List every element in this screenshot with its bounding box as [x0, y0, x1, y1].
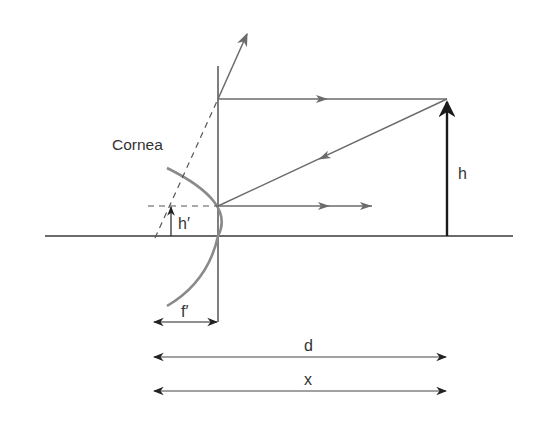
object-height-label: h — [458, 165, 467, 182]
image-height-label: h′ — [178, 215, 190, 232]
diagonal-ray — [218, 99, 447, 206]
distance-d-label: d — [304, 337, 313, 354]
distance-x-label: x — [304, 371, 312, 388]
keratometry-diagram: Cornea h h′ f′ d x — [0, 0, 533, 424]
reflected-ray — [218, 34, 247, 99]
cornea-arc — [167, 168, 222, 306]
focal-length-label: f′ — [181, 303, 188, 320]
diagonal-ray-arrow-icon — [317, 151, 331, 163]
cornea-label: Cornea — [112, 136, 163, 153]
